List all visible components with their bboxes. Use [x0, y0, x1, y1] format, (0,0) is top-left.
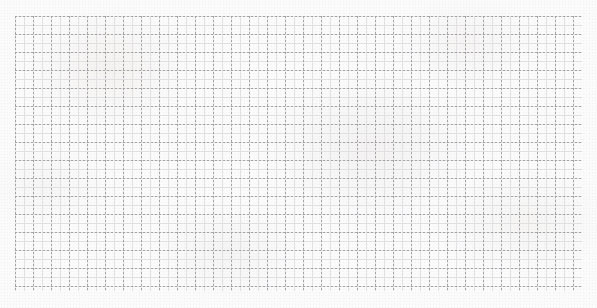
square-grid [15, 16, 582, 291]
grid-minor-lines [15, 16, 582, 291]
grid-major-lines [15, 16, 582, 291]
grid-paper-canvas [0, 0, 597, 308]
grid-major-svg [15, 16, 582, 291]
